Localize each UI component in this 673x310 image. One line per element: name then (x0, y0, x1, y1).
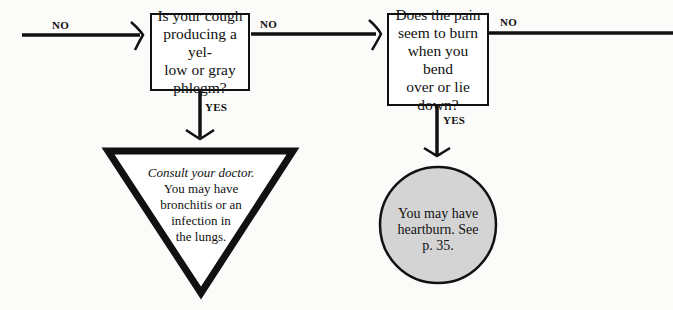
question2-yes-label: YES (443, 114, 465, 126)
question1-yes-label: YES (205, 101, 227, 113)
question2-text: Does the pain seem to burn when you bend… (392, 6, 484, 114)
incoming-no-label: NO (52, 19, 69, 31)
result1-text: Consult your doctor. You may have bronch… (132, 165, 270, 245)
question2-box: Does the pain seem to burn when you bend… (387, 13, 489, 106)
question2-no-label: NO (500, 16, 517, 28)
question1-text: Is your cough producing a yel- low or gr… (155, 7, 245, 97)
question1-no-label: NO (260, 18, 277, 30)
result1-emphasis: Consult your doctor. (132, 165, 270, 181)
result2-text: You may have heartburn. See p. 35. (385, 206, 491, 254)
flowchart: NO Is your cough producing a yel- low or… (0, 0, 673, 310)
connector-lines (0, 0, 673, 310)
question1-box: Is your cough producing a yel- low or gr… (150, 13, 250, 91)
